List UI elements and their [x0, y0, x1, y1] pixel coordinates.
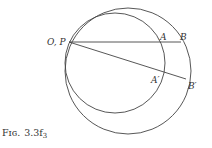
label-a-prime: A′ [150, 75, 160, 85]
label-a: A [159, 32, 167, 42]
label-op: O, P [47, 37, 67, 47]
figure-caption: Fɪɢ.3.3f3 [2, 127, 47, 140]
small-circle [65, 13, 165, 113]
large-circle [65, 8, 191, 134]
caption-prefix: Fɪɢ. [2, 127, 20, 138]
line-p-to-b-prime [69, 42, 186, 79]
geometry-diagram: O, P A B A′ B′ Fɪɢ.3.3f3 [0, 0, 212, 148]
caption-subscript: 3 [43, 132, 47, 140]
caption-number: 3.3f [24, 127, 44, 138]
label-b-prime: B′ [187, 81, 197, 91]
label-b: B [179, 32, 187, 42]
